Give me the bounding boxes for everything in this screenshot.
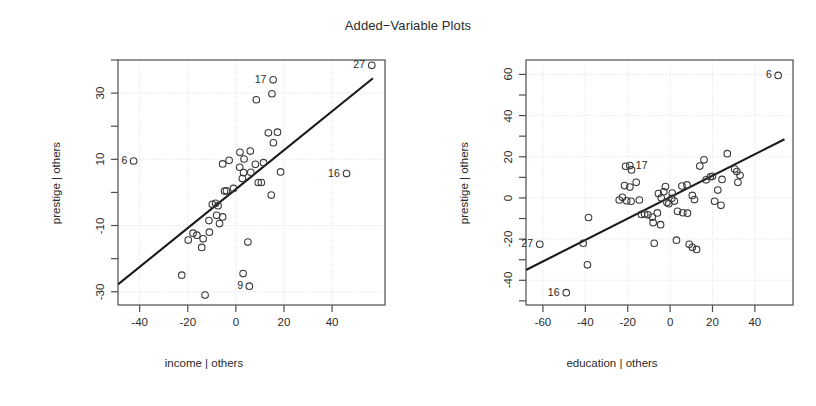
education-panel-fit-line: [526, 139, 785, 270]
income-panel-ytick-label: -30: [94, 283, 106, 300]
education-panel: -60-40-20020406040200-20-40education | o…: [408, 0, 816, 406]
education-panel-ytick-label: -40: [502, 272, 514, 289]
education-panel-point-label-27: 27: [521, 237, 533, 249]
education-panel-ytick-label: 60: [502, 68, 514, 81]
income-panel-point-label-9: 9: [237, 279, 243, 291]
education-panel-y-axis-title: prestige | others: [458, 141, 470, 223]
education-panel-point-label-6: 6: [766, 68, 772, 80]
income-panel-xtick-label: 40: [302, 316, 362, 328]
education-panel-ytick-label: 20: [502, 150, 514, 163]
income-panel-fit-line: [118, 78, 373, 284]
income-panel-ytick-label: -10: [94, 217, 106, 234]
education-panel-gridlines: [526, 60, 793, 305]
income-panel: -40-20020403010-10-30income | otherspres…: [0, 0, 408, 406]
income-panel-data-points: [130, 62, 375, 298]
education-panel-point-label-17: 17: [636, 159, 648, 171]
education-panel-data-points: [536, 72, 781, 296]
income-panel-y-axis-title: prestige | others: [50, 141, 62, 223]
income-panel-ytick-label: 10: [94, 153, 106, 166]
education-panel-ytick-label: -20: [502, 231, 514, 248]
education-panel-xtick-label: 40: [725, 316, 785, 328]
income-panel-ticks: [111, 60, 332, 312]
income-panel-ytick-label: 30: [94, 87, 106, 100]
income-panel-point-label-6: 6: [121, 154, 127, 166]
income-panel-point-label-16: 16: [328, 167, 340, 179]
education-panel-ytick-label: 40: [502, 109, 514, 122]
income-panel-point-label-17: 17: [255, 73, 267, 85]
added-variable-plots-figure: Added−Variable Plots -40-20020403010-10-…: [0, 0, 816, 406]
income-panel-x-axis-title: income | others: [0, 357, 408, 369]
income-panel-point-label-27: 27: [353, 58, 365, 70]
education-panel-x-axis-title: education | others: [408, 357, 816, 369]
education-panel-point-label-16: 16: [548, 286, 560, 298]
income-panel-gridlines: [118, 60, 385, 305]
education-panel-ytick-label: 0: [502, 195, 514, 201]
